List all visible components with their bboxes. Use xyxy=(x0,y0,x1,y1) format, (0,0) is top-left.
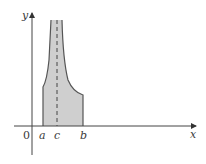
point-a-label: a xyxy=(39,129,46,142)
x-axis-label: x xyxy=(190,128,197,141)
point-c-label: c xyxy=(54,129,60,142)
point-b-label: b xyxy=(80,129,87,142)
y-axis-label: y xyxy=(21,9,29,22)
origin-label: 0 xyxy=(23,129,30,142)
improper-integral-figure: y x 0 a c b xyxy=(0,0,206,164)
